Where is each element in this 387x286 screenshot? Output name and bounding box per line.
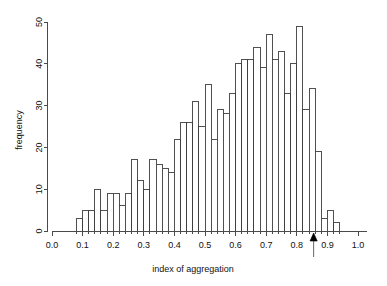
histogram-bar: [291, 64, 297, 231]
histogram-bar: [119, 206, 125, 231]
histogram-bar: [205, 85, 211, 231]
histogram-bars: [76, 26, 339, 231]
histogram-bar: [144, 189, 150, 231]
x-axis-tick-label: 0.7: [260, 240, 273, 250]
histogram-bar: [107, 193, 113, 231]
histogram-bar: [113, 193, 119, 231]
histogram-bar: [168, 172, 174, 231]
y-axis-tick-label: 10: [34, 184, 44, 194]
histogram-bar: [254, 47, 260, 231]
arrow-marker-head: [310, 233, 317, 241]
histogram-bar: [217, 110, 223, 231]
histogram-bar: [309, 89, 315, 231]
histogram-bar: [181, 122, 187, 231]
histogram-bar: [76, 218, 82, 231]
histogram-bar: [321, 218, 327, 231]
x-axis-tick-label: 0.2: [107, 240, 120, 250]
x-axis-tick-label: 0.9: [321, 240, 334, 250]
histogram-bar: [285, 93, 291, 231]
histogram-bar: [162, 168, 168, 231]
histogram-bar: [211, 139, 217, 231]
plot-annotations: [310, 233, 317, 257]
x-axis-tick-label: 1.0: [352, 240, 365, 250]
x-axis-tick-label: 0.4: [168, 240, 181, 250]
histogram-bar: [199, 127, 205, 232]
histogram-bar: [187, 122, 193, 231]
x-axis-tick-label: 0.3: [138, 240, 151, 250]
y-axis-tick-label: 50: [34, 17, 44, 27]
histogram-bar: [315, 152, 321, 231]
y-axis-tick-label: 20: [34, 142, 44, 152]
histogram-bar: [223, 114, 229, 231]
histogram-bar: [95, 189, 101, 231]
histogram-bar: [101, 210, 107, 231]
histogram-bar: [272, 60, 278, 231]
histogram-bar: [132, 160, 138, 231]
x-axis-tick-label: 0.8: [291, 240, 304, 250]
histogram-bar: [138, 181, 144, 231]
histogram-bar: [125, 193, 131, 231]
histogram-bar: [156, 164, 162, 231]
histogram-bar: [242, 60, 248, 231]
histogram-bar: [303, 110, 309, 231]
y-axis-title: frequency: [14, 110, 24, 150]
histogram-bar: [193, 101, 199, 231]
y-axis-tick-label: 0: [34, 228, 44, 233]
x-axis-tick-label: 0.6: [229, 240, 242, 250]
histogram-plot: 0.00.10.20.30.40.50.60.70.80.91.00102030…: [0, 0, 387, 286]
x-axis-tick-label: 0.5: [199, 240, 212, 250]
histogram-bar: [334, 223, 340, 231]
histogram-bar: [150, 160, 156, 231]
histogram-bar: [260, 68, 266, 231]
histogram-bar: [236, 64, 242, 231]
histogram-figure: 0.00.10.20.30.40.50.60.70.80.91.00102030…: [0, 0, 387, 286]
y-axis-tick-label: 40: [34, 59, 44, 69]
histogram-bar: [83, 210, 89, 231]
x-axis-tick-label: 0.0: [46, 240, 59, 250]
x-axis-title: index of aggregation: [152, 264, 234, 274]
histogram-bar: [174, 139, 180, 231]
histogram-bar: [229, 93, 235, 231]
histogram-bar: [248, 60, 254, 231]
histogram-bar: [297, 26, 303, 231]
x-axis-tick-label: 0.1: [76, 240, 89, 250]
histogram-bar: [327, 210, 333, 231]
histogram-bar: [89, 210, 95, 231]
histogram-bar: [266, 35, 272, 231]
histogram-bar: [278, 51, 284, 231]
y-axis-tick-label: 30: [34, 101, 44, 111]
